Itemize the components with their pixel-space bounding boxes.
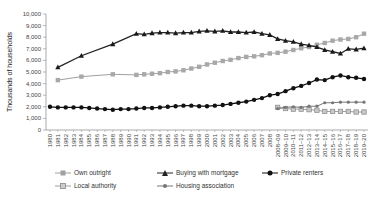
diamond-marker-icon: [157, 183, 173, 189]
y-tick-label: 8,000: [26, 34, 42, 40]
x-tick-label: 1994: [157, 133, 163, 147]
x-tick-label: 1988: [110, 133, 116, 147]
x-tick-label: 2018–19: [353, 133, 359, 157]
legend-label: Buying with mortgage: [176, 169, 239, 176]
x-tick-label: 1980: [47, 133, 53, 147]
y-tick-label: 7,000: [26, 46, 42, 52]
line-chart: 01,0002,0003,0004,0005,0006,0007,0008,00…: [0, 0, 382, 165]
legend-housing-association: Housing association: [157, 182, 234, 189]
x-tick-label: 1997: [180, 133, 186, 147]
legend-private-renters: Private renters: [262, 169, 323, 176]
y-tick-label: 10,000: [23, 11, 42, 17]
x-tick-label: 1992: [141, 133, 147, 147]
legend-own-outright: Own outright: [55, 169, 111, 176]
x-tick-label: 2008–09: [275, 133, 281, 157]
circle-marker-icon: [262, 170, 278, 176]
series-own-outright: [56, 32, 367, 83]
y-tick-label: 5,000: [26, 69, 42, 75]
legend-label: Private renters: [281, 169, 323, 176]
legend-local-authority: Local authority: [55, 182, 116, 189]
x-tick-label: 1990: [126, 133, 132, 147]
x-tick-label: 1983: [71, 133, 77, 147]
x-tick-label: 1985: [86, 133, 92, 147]
x-axis: 1980198119821983198419851986198719881989…: [46, 130, 368, 157]
x-tick-label: 1989: [118, 133, 124, 147]
x-tick-label: 1998: [188, 133, 194, 147]
x-tick-label: 1991: [133, 133, 139, 147]
x-tick-label: 1982: [63, 133, 69, 147]
x-tick-label: 2014–15: [322, 133, 328, 157]
y-tick-label: 3,000: [26, 92, 42, 98]
x-tick-label: 1993: [149, 133, 155, 147]
x-tick-label: 2016–17: [337, 133, 343, 157]
x-tick-label: 2000: [204, 133, 210, 147]
x-tick-label: 1984: [78, 133, 84, 147]
x-tick-label: 2010–11: [290, 133, 296, 157]
x-tick-label: 2005: [243, 133, 249, 147]
legend-label: Housing association: [176, 182, 234, 189]
x-tick-label: 2009–10: [283, 133, 289, 157]
x-tick-label: 2011–12: [298, 133, 304, 157]
x-tick-label: 2002: [220, 133, 226, 147]
y-tick-label: 2,000: [26, 104, 42, 110]
x-tick-label: 2015–16: [330, 133, 336, 157]
y-axis: 01,0002,0003,0004,0005,0006,0007,0008,00…: [23, 11, 46, 133]
x-tick-label: 2017–18: [345, 133, 351, 157]
x-tick-label: 1995: [165, 133, 171, 147]
square-marker-icon: [55, 170, 71, 176]
y-tick-label: 6,000: [26, 57, 42, 63]
x-tick-label: 2019–20: [361, 133, 367, 157]
y-tick-label: 4,000: [26, 81, 42, 87]
x-tick-label: 1981: [55, 133, 61, 147]
x-tick-label: 2001: [212, 133, 218, 147]
x-tick-label: 2006: [251, 133, 257, 147]
legend-label: Local authority: [74, 182, 116, 189]
legend-buying-with-mortgage: Buying with mortgage: [157, 169, 239, 176]
y-tick-label: 0: [38, 127, 42, 133]
x-tick-label: 1999: [196, 133, 202, 147]
triangle-marker-icon: [157, 170, 173, 176]
x-tick-label: 2012–13: [306, 133, 312, 157]
x-tick-label: 2004: [235, 133, 241, 147]
x-tick-label: 2008: [267, 133, 273, 147]
y-tick-label: 1,000: [26, 115, 42, 121]
series-local-authority: [275, 105, 366, 114]
legend-label: Own outright: [74, 169, 111, 176]
x-tick-label: 2003: [228, 133, 234, 147]
x-tick-label: 2007: [259, 133, 265, 147]
series-group: [48, 28, 367, 114]
y-axis-label: Thousands of households: [6, 31, 13, 112]
x-tick-label: 1986: [94, 133, 100, 147]
x-tick-label: 2013–14: [314, 133, 320, 157]
x-tick-label: 1987: [102, 133, 108, 147]
y-tick-label: 9,000: [26, 23, 42, 29]
x-tick-label: 1996: [173, 133, 179, 147]
open-square-marker-icon: [55, 183, 71, 189]
